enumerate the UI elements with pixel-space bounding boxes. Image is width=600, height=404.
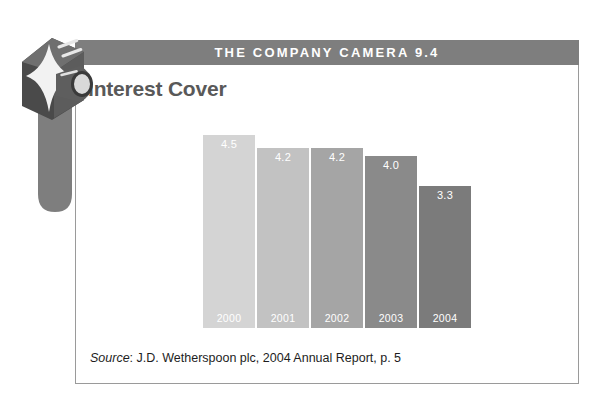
bar-category-label: 2001 — [271, 312, 296, 324]
frame-border-right — [578, 64, 579, 384]
bar-value-label: 4.5 — [221, 138, 237, 150]
slide-page: THE COMPANY CAMERA 9.4 Interest Cover — [0, 0, 600, 404]
bar-2004: 3.3 2004 — [419, 186, 471, 328]
bar-2002: 4.2 2002 — [311, 148, 363, 328]
header-band-title: THE COMPANY CAMERA 9.4 — [214, 45, 439, 60]
bar-value-label: 4.2 — [329, 151, 345, 163]
header-band: THE COMPANY CAMERA 9.4 — [75, 40, 579, 65]
bar-category-label: 2003 — [379, 312, 404, 324]
bar-2003: 4.0 2003 — [365, 156, 417, 328]
frame-border-bottom — [75, 383, 579, 384]
source-label: Source — [90, 351, 130, 365]
bar-category-label: 2002 — [325, 312, 350, 324]
page-title: Interest Cover — [88, 77, 226, 101]
bar-2000: 4.5 2000 — [203, 135, 255, 328]
source-note: Source: J.D. Wetherspoon plc, 2004 Annua… — [90, 351, 401, 365]
bar-value-label: 4.2 — [275, 151, 291, 163]
bar-2001: 4.2 2001 — [257, 148, 309, 328]
source-text: : J.D. Wetherspoon plc, 2004 Annual Repo… — [130, 351, 401, 365]
bar-chart: 4.5 2000 4.2 2001 4.2 2002 4.0 2003 3.3 … — [203, 120, 473, 328]
company-camera-logo-icon — [2, 22, 98, 217]
bar-category-label: 2004 — [433, 312, 458, 324]
bar-category-label: 2000 — [217, 312, 242, 324]
bar-value-label: 4.0 — [383, 159, 399, 171]
bar-value-label: 3.3 — [437, 189, 453, 201]
bar-chart-series: 4.5 2000 4.2 2001 4.2 2002 4.0 2003 3.3 … — [203, 120, 473, 328]
